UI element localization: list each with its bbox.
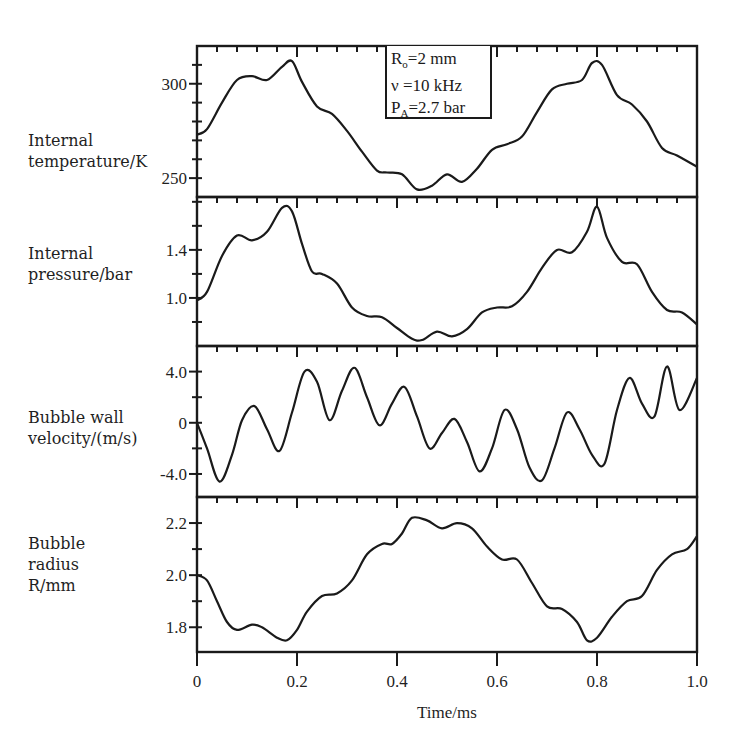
x-axis-title: Time/ms: [417, 703, 477, 722]
x-tick-label: 0: [193, 672, 202, 691]
y-tick-label: 2.0: [166, 566, 187, 585]
y-tick-label: 2.2: [166, 514, 187, 533]
y-tick-label: 300: [162, 75, 188, 94]
legend-radius-symbol: R: [391, 49, 402, 68]
plot-area: 2503001.01.4-4.004.01.82.02.200.20.40.60…: [0, 0, 746, 750]
curve-internal-pressure: [197, 206, 697, 341]
legend-radius: Ro=2 mm: [391, 48, 490, 75]
y-tick-label: 4.0: [166, 363, 187, 382]
x-tick-label: 0.8: [586, 672, 607, 691]
ylabel-radius-line1: Bubble: [28, 533, 85, 554]
ylabel-pressure-line1: Internal: [28, 243, 132, 264]
legend-frequency: ν =10 kHz: [391, 75, 490, 97]
x-tick-label: 1.0: [686, 672, 707, 691]
curve-bubble-radius: [197, 517, 697, 642]
ylabel-temperature-line2: temperature/K: [28, 151, 147, 172]
legend-radius-value: =2 mm: [408, 49, 457, 68]
ylabel-radius: Bubble radius R/mm: [28, 533, 85, 596]
y-tick-label: 1.0: [166, 289, 187, 308]
x-tick-label: 0.4: [386, 672, 408, 691]
ylabel-pressure-line2: pressure/bar: [28, 264, 132, 285]
y-tick-label: 1.4: [166, 241, 188, 260]
y-tick-label: -4.0: [160, 465, 187, 484]
y-tick-label: 1.8: [166, 618, 187, 637]
curve-bubble-wall-velocity: [197, 366, 697, 481]
panel-frame-bubble-radius: [197, 497, 697, 652]
y-tick-label: 250: [162, 169, 188, 188]
ylabel-pressure: Internal pressure/bar: [28, 243, 132, 285]
legend-pressure-value: =2.7 bar: [408, 98, 465, 117]
ylabel-velocity-line2: velocity/(m/s): [28, 428, 137, 449]
ylabel-temperature: Internal temperature/K: [28, 130, 147, 172]
ylabel-temperature-line1: Internal: [28, 130, 147, 151]
panel-frame-internal-pressure: [197, 197, 697, 346]
figure: 2503001.01.4-4.004.01.82.02.200.20.40.60…: [0, 0, 746, 750]
y-tick-label: 0: [179, 414, 188, 433]
ylabel-velocity-line1: Bubble wall: [28, 407, 137, 428]
ylabel-velocity: Bubble wall velocity/(m/s): [28, 407, 137, 449]
ylabel-radius-line3: R/mm: [28, 575, 85, 596]
parameter-legend: Ro=2 mm ν =10 kHz PA=2.7 bar: [385, 46, 492, 119]
x-tick-label: 0.2: [286, 672, 307, 691]
legend-pressure: PA=2.7 bar: [391, 97, 490, 124]
x-tick-label: 0.6: [486, 672, 507, 691]
ylabel-radius-line2: radius: [28, 554, 85, 575]
panel-frame-bubble-wall-velocity: [197, 346, 697, 497]
